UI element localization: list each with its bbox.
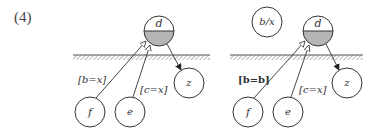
node-f-left: f bbox=[75, 97, 105, 127]
left-diagram: d f e z [b=x] [c=x] bbox=[73, 16, 210, 127]
ground-hatch-left bbox=[73, 55, 210, 60]
node-b-over-x: b/x bbox=[252, 7, 282, 37]
node-f-right: f bbox=[233, 97, 263, 127]
node-d-left: d bbox=[144, 16, 174, 46]
node-d-right: d bbox=[303, 16, 333, 46]
figure-number: (4) bbox=[14, 9, 32, 26]
edge-label-b-equals-b: [b=b] bbox=[238, 74, 270, 85]
edge-f-to-d bbox=[96, 41, 146, 98]
right-diagram: b/x d f e z bbox=[230, 7, 363, 127]
node-e-left: e bbox=[115, 97, 145, 127]
edge-f-to-d bbox=[254, 41, 305, 98]
diagram-canvas: d f e z [b=x] [c=x] bbox=[0, 0, 381, 133]
node-label: d bbox=[155, 17, 162, 30]
node-z-left: z bbox=[174, 68, 204, 98]
edge-label-b-equals-x: [b=x] bbox=[78, 74, 106, 85]
node-label: z bbox=[343, 77, 350, 88]
node-z-right: z bbox=[332, 68, 362, 98]
diagram-figure: (4) bbox=[0, 0, 381, 133]
node-label: d bbox=[314, 17, 321, 30]
node-label: b/x bbox=[259, 16, 275, 27]
node-label: e bbox=[127, 106, 133, 117]
node-e-right: e bbox=[273, 97, 303, 127]
edge-label-c-equals-x: [c=x] bbox=[140, 84, 168, 95]
ground-hatch-right bbox=[230, 55, 363, 60]
node-label: z bbox=[185, 77, 192, 88]
edge-label-c-equals-x: [c=x] bbox=[299, 84, 327, 95]
node-label: e bbox=[285, 106, 291, 117]
